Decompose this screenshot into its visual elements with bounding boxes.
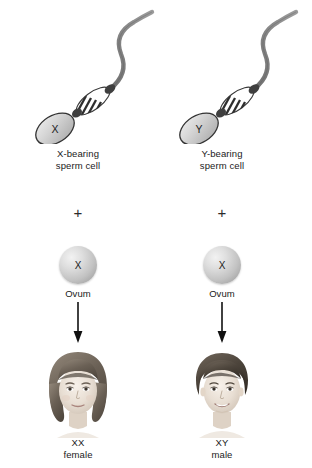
pupil-right [228,387,231,390]
sex-determination-diagram: X X-bearing sperm cell + X Ovum [0,0,312,468]
arrow-down-y [215,302,229,348]
offspring-sex: male [144,449,300,461]
offspring-sex: female [0,449,156,461]
ovum-chromosome-label: X [75,259,82,270]
offspring-portrait-female [35,346,121,438]
neck [213,412,231,429]
sperm-caption-line1: Y-bearing [144,148,300,160]
sperm-head-chromosome-label: X [51,123,58,135]
sperm-illustration: Y [144,4,300,144]
pupil-left [68,387,71,390]
sperm-caption-line2: sperm cell [0,160,156,172]
neck [69,412,87,429]
pupil-left [212,387,215,390]
plus-operator-y: + [144,205,300,220]
ovum-chromosome-label: X [219,259,226,270]
boy-face-illustration [179,346,265,438]
offspring-genotype: XY [144,437,300,449]
sperm-caption-y: Y-bearing sperm cell [144,148,300,171]
column-y-bearing: Y Y-bearing sperm cell + X Ovum [144,0,300,468]
sperm-caption-line1: X-bearing [0,148,156,160]
ovum-y: X [203,246,241,284]
sperm-tail-outline [254,12,296,89]
pupil-right [84,387,87,390]
offspring-caption-male: XY male [144,437,300,460]
ear-left [200,388,205,397]
ovum-x: X [59,246,97,284]
arrow-down-x [71,302,85,348]
plus-operator-x: + [0,205,156,220]
sperm-illustration: X [0,4,156,144]
column-x-bearing: X X-bearing sperm cell + X Ovum [0,0,156,468]
girl-face-illustration [35,346,121,438]
sperm-cell-x: X [0,4,156,144]
ovum-caption-x: Ovum [0,288,156,300]
cheek-left [62,395,70,401]
sperm-caption-line2: sperm cell [144,160,300,172]
ovum-caption-y: Ovum [144,288,300,300]
sperm-caption-x: X-bearing sperm cell [0,148,156,171]
sperm-head-chromosome-label: Y [195,123,202,135]
arrow-icon [71,302,85,344]
arrow-icon [215,302,229,344]
ear-right [238,388,243,397]
offspring-portrait-male [179,346,265,438]
offspring-genotype: XX [0,437,156,449]
sperm-cell-y: Y [144,4,300,144]
cheek-right [86,395,94,401]
offspring-caption-female: XX female [0,437,156,460]
